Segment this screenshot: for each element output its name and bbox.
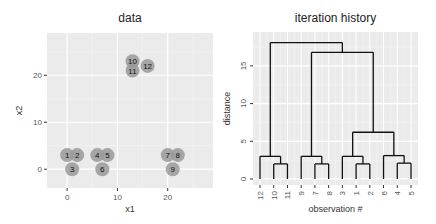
point-label: 12 [143,62,152,71]
point-label: 7 [166,151,171,160]
leaf-label: 1 [352,190,361,195]
x-axis-title: observation # [308,204,362,214]
leaf-label: 7 [311,190,320,195]
y-tick-label: 20 [33,71,42,80]
point-label: 9 [171,165,176,174]
leaf-label: 12 [256,190,265,199]
point-label: 3 [70,165,75,174]
point-label: 6 [100,165,105,174]
point-label: 8 [176,151,181,160]
y-axis-title: distance [222,92,232,126]
leaf-label: 6 [380,190,389,195]
point-label: 1 [65,151,70,160]
point-label: 10 [128,57,137,66]
y-tick-label: 5 [239,139,248,144]
leaf-label: 5 [407,190,416,195]
leaf-label: 3 [338,190,347,195]
x-tick-label: 0 [65,193,70,202]
y-tick-label: 0 [38,165,43,174]
point-label: 4 [95,151,100,160]
point-label: 2 [75,151,80,160]
figure: data0102001020123456789101112x1x2 iterat… [0,0,436,224]
y-tick-label: 10 [33,118,42,127]
point-label: 5 [105,151,110,160]
dendrogram-iteration-history: iteration history051015121011978312645ob… [218,0,436,224]
leaf-label: 8 [325,190,334,195]
x-axis-title: x1 [125,204,135,214]
y-axis-title: x2 [14,106,24,116]
point-label: 11 [128,67,137,76]
scatter-chart-data: data0102001020123456789101112x1x2 [0,0,218,224]
y-tick-label: 0 [239,176,248,181]
y-tick-label: 10 [239,99,248,108]
leaf-label: 9 [297,190,306,195]
x-tick-label: 20 [163,193,172,202]
chart-title: iteration history [295,11,376,25]
leaf-label: 11 [283,190,292,199]
leaf-label: 2 [366,190,375,195]
leaf-label: 10 [270,190,279,199]
chart-title: data [118,11,142,25]
leaf-label: 4 [393,190,402,195]
x-tick-label: 10 [113,193,122,202]
y-tick-label: 15 [239,61,248,70]
